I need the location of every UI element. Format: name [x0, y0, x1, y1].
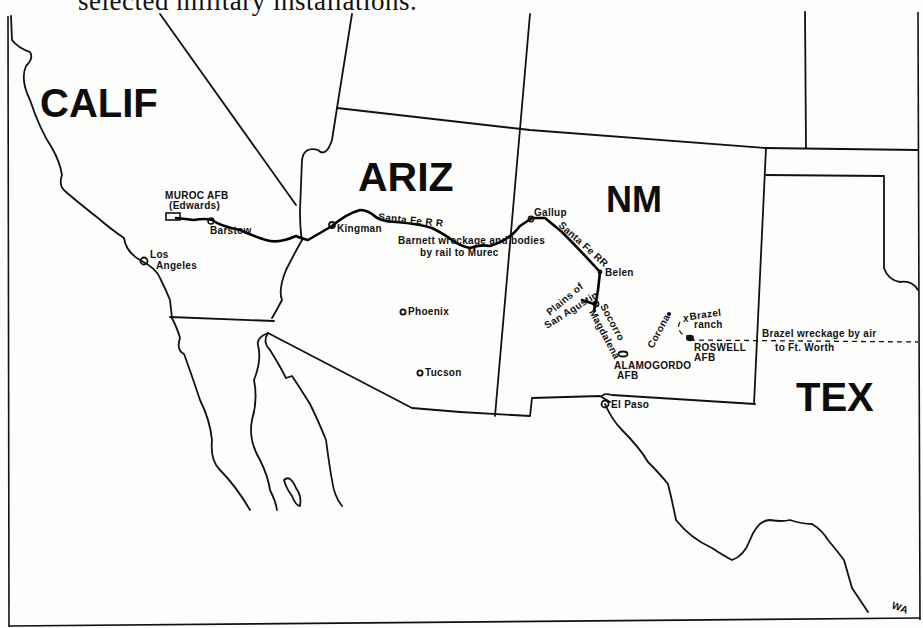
california-coast [11, 16, 172, 318]
label-brazel-ranch-2: ranch [694, 319, 723, 330]
ca-az-border [272, 240, 302, 318]
roswell-marker [686, 335, 694, 341]
label-roswell-2: AFB [694, 352, 715, 363]
artist-signature: WA [890, 600, 909, 616]
state-label-calif: CALIF [40, 81, 158, 125]
ca-mexico-border [170, 317, 274, 321]
sonora-coast [265, 333, 342, 506]
az-nm-north-border [337, 108, 765, 148]
label-los-angeles-2: Angeles [156, 260, 197, 271]
nm-tx-border [754, 148, 766, 404]
frame-left [8, 16, 9, 627]
az-nm-border [495, 14, 530, 416]
label-kingman: Kingman [337, 223, 382, 234]
label-barnett-1: Barnett wreckage and bodies [398, 235, 545, 246]
state-label-ariz: ARIZ [358, 154, 454, 200]
az-nv-border [300, 108, 337, 240]
rio-grande [605, 404, 868, 612]
frame-right [918, 12, 920, 620]
label-alamogordo-2: AFB [617, 370, 638, 381]
frame-bottom [9, 618, 920, 626]
label-gallup: Gallup [534, 207, 567, 218]
state-label-tex: TEX [796, 375, 874, 419]
label-los-angeles-1: Los [150, 249, 169, 260]
label-belen: Belen [605, 267, 634, 278]
co-ks-line [805, 12, 806, 148]
tiburon-island [284, 478, 301, 506]
label-barstow: Barstow [210, 225, 252, 236]
label-muroc-sub: (Edwards) [169, 200, 220, 211]
roswell-map: x CALIF ARIZ NM TEX MUROC AFB (Edwards) … [0, 0, 923, 628]
label-barnett-2: by rail to Murec [420, 247, 499, 258]
belen-marker [598, 270, 603, 275]
ca-nv-border [160, 14, 296, 205]
label-brazel-air-1: Brazel wreckage by air [762, 328, 876, 339]
tucson-marker [417, 370, 422, 375]
phoenix-marker [400, 309, 405, 314]
label-el-paso: El Paso [611, 399, 649, 410]
brazel-ranch-x: x [683, 313, 689, 324]
brazel-ranch-trail [678, 322, 688, 336]
baja-east-coast [251, 333, 277, 510]
label-santa-fe-rr-az: Santa Fe R R [378, 211, 445, 229]
nm-mexico-border [460, 396, 610, 416]
label-corona: Corona [645, 312, 672, 350]
nv-ut-border [337, 14, 352, 108]
state-label-nm: NM [606, 179, 662, 220]
panhandle-top [765, 148, 918, 150]
label-phoenix: Phoenix [408, 306, 449, 317]
baja-west-coast [172, 318, 250, 510]
label-tucson: Tucson [425, 367, 462, 378]
label-santa-fe-rr-nm: Santa Fe RR [557, 219, 611, 269]
tx-ok-border [766, 175, 918, 290]
label-brazel-air-2: to Ft. Worth [775, 342, 835, 353]
